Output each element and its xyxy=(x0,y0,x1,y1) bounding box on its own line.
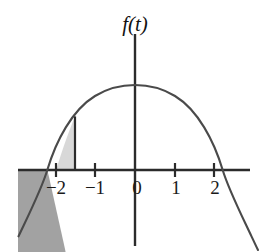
light-shaded-region xyxy=(56,116,75,170)
function-label: f(t) xyxy=(122,12,148,37)
tick-label-neg1: −1 xyxy=(85,178,105,197)
tick-label-zero: 0 xyxy=(132,178,142,197)
tick-label-two: 2 xyxy=(210,178,220,197)
tick-label-neg2: −2 xyxy=(46,178,66,197)
tick-label-one: 1 xyxy=(171,178,181,197)
parabola-plot xyxy=(0,0,276,252)
figure-container: f(t) −2 −1 0 1 2 xyxy=(0,0,276,252)
